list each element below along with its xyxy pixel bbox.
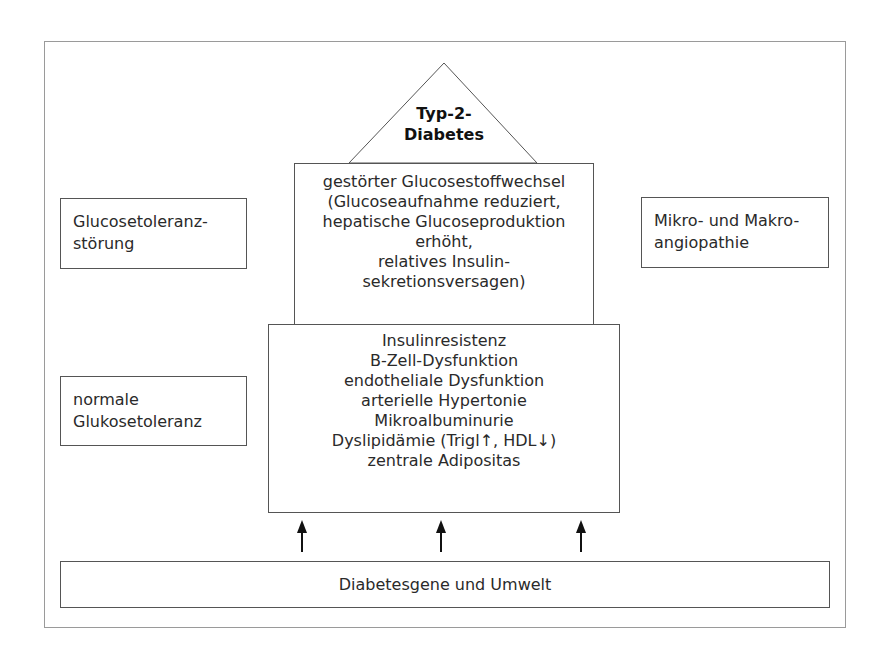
lower-box-line: Mikroalbuminurie bbox=[269, 411, 619, 431]
apex-line: Diabetes bbox=[384, 124, 504, 145]
middle-box-line: sekretionsversagen) bbox=[295, 272, 593, 292]
middle-box-line: relatives Insulin- bbox=[295, 252, 593, 272]
left-lower-box-normal-tolerance: normale Glukosetoleranz bbox=[60, 376, 247, 446]
base-box-label: Diabetesgene und Umwelt bbox=[339, 575, 552, 594]
arrow-center bbox=[436, 520, 446, 552]
arrow-left bbox=[297, 520, 307, 552]
left-upper-line: Glucosetoleranz- bbox=[73, 211, 238, 233]
left-lower-line: Glukosetoleranz bbox=[73, 411, 238, 433]
lower-box-line: Insulinresistenz bbox=[269, 331, 619, 351]
base-box-genes-environment: Diabetesgene und Umwelt bbox=[60, 561, 830, 608]
right-upper-line: angiopathie bbox=[654, 232, 820, 254]
lower-box-line: zentrale Adipositas bbox=[269, 451, 619, 471]
lower-box-line: B-Zell-Dysfunktion bbox=[269, 351, 619, 371]
arrow-right bbox=[576, 520, 586, 552]
middle-box-glucose-metabolism: gestörter Glucosestoffwechsel (Glucoseau… bbox=[294, 163, 594, 325]
middle-box-line: erhöht, bbox=[295, 232, 593, 252]
middle-box-line: gestörter Glucosestoffwechsel bbox=[295, 172, 593, 192]
lower-box-line: Dyslipidämie (Trigl↑, HDL↓) bbox=[269, 431, 619, 451]
left-upper-box-glucose-intolerance: Glucosetoleranz- störung bbox=[60, 198, 247, 269]
lower-box-risk-factors: Insulinresistenz B-Zell-Dysfunktion endo… bbox=[268, 324, 620, 513]
right-upper-line: Mikro- und Makro- bbox=[654, 210, 820, 232]
lower-box-line: arterielle Hypertonie bbox=[269, 391, 619, 411]
middle-box-line: hepatische Glucoseproduktion bbox=[295, 212, 593, 232]
left-lower-line: normale bbox=[73, 389, 238, 411]
right-upper-box-angiopathy: Mikro- und Makro- angiopathie bbox=[641, 197, 829, 268]
lower-box-line: endotheliale Dysfunktion bbox=[269, 371, 619, 391]
middle-box-line: (Glucoseaufnahme reduziert, bbox=[295, 192, 593, 212]
left-upper-line: störung bbox=[73, 233, 238, 255]
apex-label: Typ-2- Diabetes bbox=[384, 103, 504, 145]
apex-line: Typ-2- bbox=[384, 103, 504, 124]
